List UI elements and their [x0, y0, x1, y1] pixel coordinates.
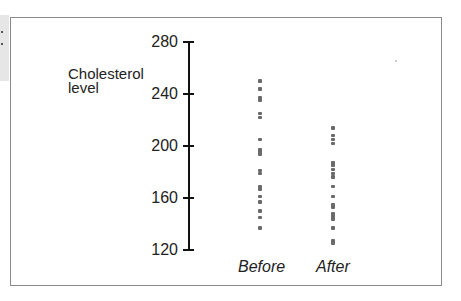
data-point-after: [331, 226, 335, 230]
y-axis-label-line-2: level: [68, 81, 144, 95]
y-tick-label: 200: [138, 138, 178, 154]
strip-mark: [1, 31, 3, 33]
data-point-after: [331, 195, 335, 199]
x-category-after: After: [316, 258, 350, 276]
data-point-after: [331, 138, 335, 142]
data-point-after: [331, 217, 335, 221]
data-point-after: [331, 164, 335, 168]
y-tick-label: 240: [138, 86, 178, 102]
side-strip: [0, 15, 9, 81]
data-point-before: [258, 216, 262, 220]
data-point-after: [331, 185, 335, 189]
data-point-after: [331, 126, 335, 130]
data-point-before: [258, 187, 262, 191]
y-tick: [183, 145, 194, 147]
data-point-before: [258, 99, 262, 103]
data-point-before: [258, 138, 262, 142]
data-point-after: [331, 168, 335, 172]
data-point-before: [258, 152, 262, 156]
x-category-before: Before: [238, 258, 285, 276]
data-point-before: [258, 116, 262, 120]
data-point-after: [331, 142, 335, 146]
y-tick-label: 120: [138, 242, 178, 258]
data-point-after: [331, 205, 335, 209]
data-point-before: [258, 79, 262, 83]
y-tick: [183, 249, 194, 251]
y-tick: [183, 197, 194, 199]
y-axis-label: Cholesterol level: [68, 67, 144, 95]
chart-frame: [10, 17, 442, 286]
y-tick-label: 160: [138, 190, 178, 206]
strip-mark: [1, 43, 3, 45]
y-tick-label: 280: [138, 34, 178, 50]
data-point-before: [258, 172, 262, 176]
data-point-before: [258, 209, 262, 213]
data-point-before: [258, 87, 262, 91]
data-point-before: [258, 200, 262, 204]
y-tick: [183, 41, 194, 43]
data-point-before: [258, 195, 262, 199]
data-point-after: [331, 242, 335, 246]
speck: [395, 60, 397, 62]
y-tick: [183, 93, 194, 95]
data-point-after: [331, 175, 335, 179]
data-point-before: [258, 112, 262, 116]
data-point-before: [258, 226, 262, 230]
data-point-after: [331, 134, 335, 138]
